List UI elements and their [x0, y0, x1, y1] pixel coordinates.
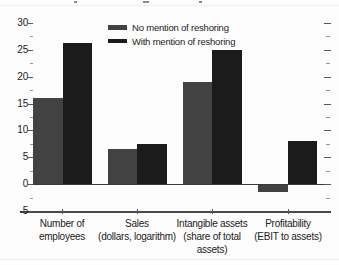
legend-item: No mention of reshoring: [108, 21, 229, 34]
bar-series0-cat0: [33, 98, 63, 184]
y-major-tick-right: [324, 157, 331, 158]
y-minor-tick-left: [30, 171, 33, 172]
y-major-tick-left: [28, 130, 33, 131]
y-major-tick-left: [28, 157, 33, 158]
y-minor-tick-right: [326, 63, 330, 64]
y-major-tick-right: [324, 50, 331, 51]
x-category-label-line: Profitability: [236, 217, 339, 230]
y-major-tick-left: [28, 104, 33, 105]
reshoring-firm-characteristics-bar-chart: 302520151050-5 No mention of reshoringWi…: [0, 0, 339, 265]
y-minor-tick-left: [30, 198, 33, 199]
y-minor-tick-right: [326, 117, 330, 118]
y-minor-tick-left: [30, 63, 33, 64]
x-category-tick: [137, 209, 138, 215]
y-minor-tick-left: [30, 36, 33, 37]
x-axis-line: [20, 211, 331, 213]
y-minor-tick-right: [326, 36, 330, 37]
y-minor-tick-left: [30, 144, 33, 145]
y-tick-label: -5: [0, 205, 28, 217]
y-major-tick-left: [28, 50, 33, 51]
bar-series1-cat3: [288, 141, 318, 184]
y-tick-label: 25: [0, 44, 28, 56]
bar-series1-cat1: [137, 144, 167, 184]
y-major-tick-left: [28, 77, 33, 78]
y-tick-label: 10: [0, 124, 28, 136]
y-minor-tick-right: [326, 90, 330, 91]
y-minor-tick-left: [30, 117, 33, 118]
y-major-tick-right: [324, 104, 331, 105]
bottom-scan-artifact: [0, 259, 339, 260]
y-minor-tick-right: [326, 144, 330, 145]
legend-label: No mention of reshoring: [132, 22, 229, 33]
y-major-tick-right: [324, 77, 331, 78]
y-major-tick-right: [324, 184, 331, 185]
y-minor-tick-right: [326, 198, 330, 199]
y-tick-label: 5: [0, 151, 28, 163]
y-minor-tick-right: [326, 171, 330, 172]
bar-series0-cat3: [258, 185, 288, 192]
x-category-tick: [288, 209, 289, 215]
bar-series1-cat0: [63, 43, 93, 184]
y-major-tick-left: [28, 23, 33, 24]
y-tick-label: 15: [0, 98, 28, 110]
bar-series1-cat2: [212, 50, 242, 184]
legend-swatch-icon: [108, 25, 127, 30]
y-tick-label: 0: [0, 178, 28, 190]
zero-gridline: [33, 184, 330, 185]
x-category-label: Profitability(EBIT to assets): [236, 217, 339, 243]
y-major-tick-right: [324, 130, 331, 131]
x-category-tick: [62, 209, 63, 215]
y-tick-label: 20: [0, 71, 28, 83]
bar-series0-cat1: [108, 149, 138, 184]
legend-label: With mention of reshoring: [132, 36, 235, 47]
legend-swatch-icon: [108, 39, 127, 44]
bar-series0-cat2: [183, 82, 213, 184]
y-major-tick-right: [324, 23, 331, 24]
x-category-tick: [212, 209, 213, 215]
x-category-label-line: (EBIT to assets): [236, 230, 339, 243]
y-major-tick-left: [28, 184, 33, 185]
legend-item: With mention of reshoring: [108, 35, 235, 48]
y-minor-tick-left: [30, 90, 33, 91]
x-category-label-line: assets): [160, 243, 264, 256]
y-tick-label: 30: [0, 17, 28, 29]
